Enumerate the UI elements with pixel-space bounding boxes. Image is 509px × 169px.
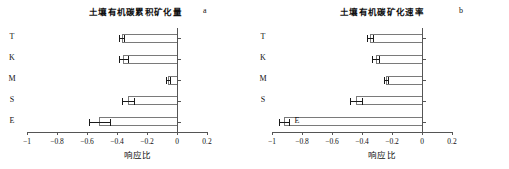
category-label-t: T — [256, 32, 270, 41]
x-tick-mark — [272, 132, 273, 135]
category-label-m: M — [256, 74, 270, 83]
y-tick-mark — [178, 101, 181, 102]
x-tick-label: −0.6 — [72, 137, 102, 146]
x-tick-mark — [422, 132, 423, 135]
panel-a-plot-area: −1−0.8−0.6−0.4−0.200.2TKMSE — [27, 28, 207, 132]
category-label-s: S — [256, 95, 270, 104]
bar-t — [122, 34, 178, 43]
x-tick-label: −0.8 — [42, 137, 72, 146]
bar-e — [284, 117, 422, 126]
x-tick-label: −0.6 — [317, 137, 347, 146]
x-tick-mark — [362, 132, 363, 135]
x-tick-label: 0 — [162, 137, 192, 146]
error-cap-k-lower — [119, 56, 120, 63]
panel-b-title: 土壤有机碳矿化速率 — [255, 7, 509, 18]
error-bar-k — [119, 59, 128, 60]
y-tick-mark — [423, 38, 426, 39]
x-tick-mark — [332, 132, 333, 135]
y-tick-mark — [178, 59, 181, 60]
panel-a-x-axis-title: 响应比 — [0, 148, 265, 160]
bar-s — [356, 96, 422, 105]
error-bar-k — [372, 59, 380, 60]
y-tick-mark — [178, 38, 181, 39]
error-cap-t-upper — [373, 35, 374, 42]
bar-e — [99, 117, 177, 126]
chart-panel-b: 土壤有机碳矿化速率 b −1−0.8−0.6−0.4−0.200.2TKMSE … — [255, 0, 509, 169]
y-tick-mark — [423, 59, 426, 60]
x-tick-label: −1 — [12, 137, 42, 146]
bar-s — [128, 96, 178, 105]
x-tick-mark — [117, 132, 118, 135]
x-tick-mark — [392, 132, 393, 135]
x-tick-mark — [302, 132, 303, 135]
panel-b-plot-area: −1−0.8−0.6−0.4−0.200.2TKMSE — [272, 28, 452, 132]
chart-panel-a: 土壤有机碳累积矿化量 a −1−0.8−0.6−0.4−0.200.2TKMSE… — [0, 0, 255, 169]
x-tick-label: −0.8 — [287, 137, 317, 146]
error-cap-s-upper — [134, 98, 135, 105]
error-cap-e-upper — [110, 119, 111, 126]
x-tick-label: −0.2 — [377, 137, 407, 146]
error-cap-k-upper — [128, 56, 129, 63]
y-tick-mark — [423, 122, 426, 123]
error-cap-m-upper — [170, 77, 171, 84]
error-cap-t-lower — [119, 35, 120, 42]
bar-k — [123, 55, 177, 64]
category-label-s: S — [5, 95, 19, 104]
figure-container: 土壤有机碳累积矿化量 a −1−0.8−0.6−0.4−0.200.2TKMSE… — [0, 0, 509, 169]
y-tick-mark — [178, 80, 181, 81]
x-tick-label: −0.2 — [132, 137, 162, 146]
category-label-e: E — [5, 116, 19, 125]
bar-k — [376, 55, 423, 64]
y-tick-mark — [178, 122, 181, 123]
error-cap-s-lower — [350, 98, 351, 105]
x-tick-label: 0.2 — [192, 137, 222, 146]
x-tick-mark — [147, 132, 148, 135]
error-cap-t-lower — [367, 35, 368, 42]
panel-b-x-axis-title: 响应比 — [255, 148, 509, 160]
error-cap-k-lower — [372, 56, 373, 63]
y-tick-mark — [423, 101, 426, 102]
x-tick-label: −0.4 — [102, 137, 132, 146]
error-cap-t-upper — [124, 35, 125, 42]
category-label-k: K — [5, 53, 19, 62]
x-tick-label: 0.2 — [437, 137, 467, 146]
error-cap-m-lower — [384, 77, 385, 84]
category-label-e: E — [290, 116, 304, 125]
x-tick-mark — [207, 132, 208, 135]
category-label-k: K — [256, 53, 270, 62]
error-bar-s — [122, 101, 134, 102]
error-cap-k-upper — [379, 56, 380, 63]
bar-m — [386, 76, 422, 85]
error-cap-s-lower — [122, 98, 123, 105]
error-bar-e — [279, 122, 290, 123]
error-cap-m-lower — [166, 77, 167, 84]
error-cap-e-lower — [89, 119, 90, 126]
bar-t — [370, 34, 423, 43]
x-tick-mark — [452, 132, 453, 135]
error-cap-s-upper — [362, 98, 363, 105]
panel-a-title: 土壤有机碳累积矿化量 — [0, 7, 263, 18]
error-bar-e — [89, 122, 110, 123]
x-tick-mark — [27, 132, 28, 135]
category-label-m: M — [5, 74, 19, 83]
x-tick-mark — [57, 132, 58, 135]
x-tick-label: 0 — [407, 137, 437, 146]
panel-a-letter: a — [203, 6, 207, 15]
panel-b-letter: b — [459, 6, 463, 15]
x-tick-label: −1 — [257, 137, 287, 146]
error-bar-s — [350, 101, 362, 102]
x-tick-mark — [177, 132, 178, 135]
error-cap-m-upper — [388, 77, 389, 84]
x-tick-label: −0.4 — [347, 137, 377, 146]
error-cap-e-lower — [279, 119, 280, 126]
category-label-t: T — [5, 32, 19, 41]
y-tick-mark — [423, 80, 426, 81]
x-tick-mark — [87, 132, 88, 135]
